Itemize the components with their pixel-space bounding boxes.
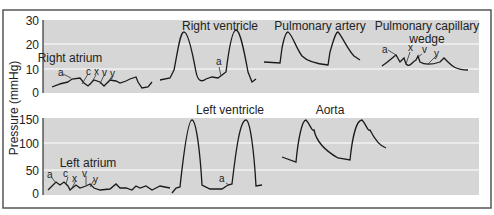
wave-label-c: c — [86, 66, 91, 77]
tick-label: 150 — [19, 113, 39, 127]
wave-label-x: x — [94, 66, 99, 77]
right-atrium-label: Right atrium — [38, 51, 103, 65]
wave-label-v: v — [102, 67, 107, 78]
wave-label-a: a — [216, 56, 222, 67]
aorta-label: Aorta — [316, 103, 345, 117]
left-ventricle-label: Left ventricle — [196, 103, 264, 117]
pulmonary-artery-label: Pulmonary artery — [274, 19, 365, 33]
wave-label-a: a — [58, 67, 64, 78]
pcw-label-line2: wedge — [408, 32, 445, 46]
tick-label: 0 — [32, 86, 39, 100]
wave-label-a: a — [47, 169, 53, 180]
tick-label: 50 — [26, 164, 40, 178]
right-ventricle-label: Right ventricle — [182, 19, 258, 33]
tick-label: 30 — [26, 14, 40, 28]
tick-label: 20 — [26, 38, 40, 52]
pressure-waveform-figure: 30 20 10 0 Right atrium a c x v y a a x … — [0, 0, 494, 215]
wave-label-a: a — [219, 173, 225, 184]
wave-label-v: v — [82, 168, 87, 179]
left-atrium-label: Left atrium — [60, 156, 117, 170]
wave-label-x: x — [72, 173, 77, 184]
wave-label-y: y — [434, 48, 439, 59]
wave-label-y: y — [93, 174, 98, 185]
tick-label: 10 — [26, 63, 40, 77]
wave-label-y: y — [110, 68, 115, 79]
tick-label: 100 — [19, 137, 39, 151]
wave-label-a: a — [382, 44, 388, 55]
tick-label: 0 — [32, 187, 39, 201]
top-panel: 30 20 10 0 Right atrium a c x v y a a x … — [26, 14, 480, 100]
pcw-label-line1: Pulmonary capillary — [375, 19, 480, 33]
wave-label-c: c — [63, 168, 68, 179]
